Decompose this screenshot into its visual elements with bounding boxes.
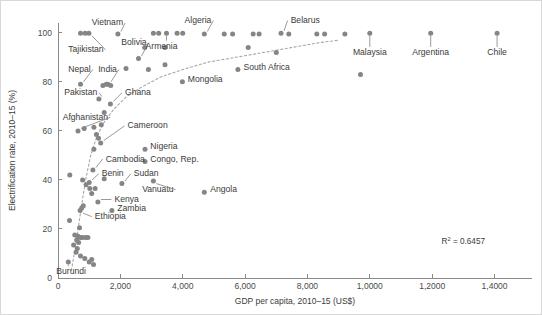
data-point[interactable] [230,32,235,37]
point-leader-pakistan [99,93,102,97]
point-label-belarus: Belarus [291,15,320,25]
point-label-sudan: Sudan [134,168,159,178]
point-leader-sudan [125,174,131,181]
x-tick-label: 2,000 [110,281,132,291]
data-point[interactable] [67,218,72,223]
data-point[interactable] [164,31,169,36]
point-label-chile: Chile [487,47,507,57]
scatter-chart-svg: 02,0004,0006,0008,0001,00001,20001,40000… [1,1,542,315]
data-point[interactable] [82,256,87,261]
y-tick-label: 60 [43,126,53,136]
point-leader-ethiopia [83,213,92,217]
point-leader-ghana [113,93,122,102]
data-point[interactable] [279,31,284,36]
data-point[interactable] [136,56,141,61]
point-label-congo-rep: Congo, Rep. [150,154,198,164]
data-point[interactable] [76,240,81,245]
data-point[interactable] [93,186,98,191]
data-point-chile[interactable] [495,31,500,36]
data-point-tajikistan[interactable] [86,31,91,36]
data-point[interactable] [78,82,83,87]
data-point-india[interactable] [105,82,110,87]
data-point[interactable] [108,101,113,106]
point-label-vanuatu: Vanuatu [142,184,174,194]
data-point-malaysia[interactable] [367,31,372,36]
data-point[interactable] [85,235,90,240]
data-point[interactable] [89,257,94,262]
data-point[interactable] [94,132,99,137]
y-axis-title: Electrification rate, 2010–15 (%) [7,90,17,211]
point-leader-cameroon [104,126,125,141]
data-point[interactable] [91,147,96,152]
data-point[interactable] [91,262,96,267]
data-point[interactable] [100,83,105,88]
data-point[interactable] [314,32,319,37]
point-leader-benin [92,174,99,180]
point-label-cameroon: Cameroon [128,120,168,130]
data-point[interactable] [66,260,71,265]
data-point[interactable] [222,32,227,37]
x-tick-label: 1,4000 [482,281,508,291]
data-point[interactable] [175,31,180,36]
data-point[interactable] [90,168,95,173]
data-point[interactable] [84,182,89,187]
data-point[interactable] [81,203,86,208]
data-point[interactable] [274,50,279,55]
data-point[interactable] [251,32,256,37]
data-point[interactable] [202,32,207,37]
data-point[interactable] [87,186,92,191]
data-point[interactable] [78,253,83,258]
data-point[interactable] [286,32,291,37]
x-tick-label: 1,2000 [419,281,445,291]
data-point[interactable] [342,32,347,37]
data-point[interactable] [180,79,185,84]
point-leader-belarus [284,21,288,31]
data-point[interactable] [115,32,120,37]
data-point[interactable] [80,177,85,182]
point-label-cambodia: Cambodia [106,154,145,164]
y-tick-label: 40 [43,175,53,185]
data-point[interactable] [119,181,124,186]
data-point[interactable] [202,190,207,195]
data-point[interactable] [95,200,100,205]
data-point[interactable] [180,31,185,36]
data-point[interactable] [143,147,148,152]
data-point[interactable] [77,225,82,230]
data-point[interactable] [156,31,161,36]
data-point[interactable] [124,66,129,71]
point-leader-cambodia [96,159,103,168]
data-point[interactable] [146,67,151,72]
data-point[interactable] [235,67,240,72]
point-label-nepal: Nepal [68,64,91,74]
data-point[interactable] [163,62,168,67]
data-point[interactable] [98,141,103,146]
data-point[interactable] [358,72,363,77]
data-point[interactable] [322,32,327,37]
data-point-argentina[interactable] [428,31,433,36]
x-axis-title: GDP per capita, 2010–15 (US$) [235,296,355,306]
y-tick-label: 20 [43,224,53,234]
data-point[interactable] [257,32,262,37]
y-tick-label: 0 [47,273,52,283]
point-label-ghana: Ghana [125,87,151,97]
data-point[interactable] [67,173,72,178]
r-squared-annotation: R2 = 0.6457 [442,236,486,246]
data-point[interactable] [89,191,94,196]
data-point[interactable] [151,31,156,36]
data-point[interactable] [151,179,156,184]
point-label-angola: Angola [210,184,237,194]
data-point[interactable] [76,128,81,133]
y-tick-label: 80 [43,77,53,87]
data-point[interactable] [72,233,77,238]
data-point[interactable] [71,242,76,247]
point-label-burundi: Burundi [56,266,86,276]
data-point[interactable] [91,125,96,130]
point-label-tajikistan: Tajikistan [68,44,104,54]
data-point[interactable] [246,45,251,50]
chart-figure: 02,0004,0006,0008,0001,00001,20001,40000… [0,0,542,315]
data-point[interactable] [99,122,104,127]
x-tick-label: 8,000 [297,281,319,291]
data-point[interactable] [74,250,79,255]
data-point[interactable] [78,31,83,36]
x-tick-label: 1,0000 [357,281,383,291]
